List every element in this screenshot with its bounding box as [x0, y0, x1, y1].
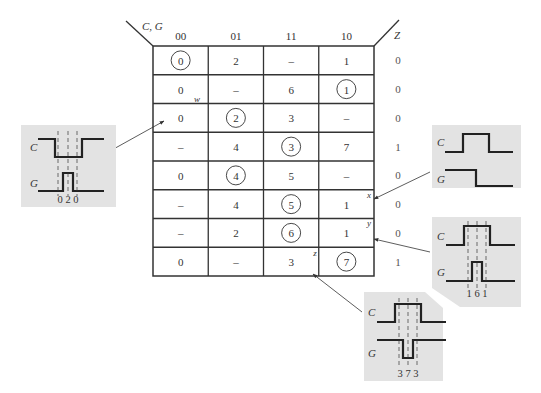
marker-w: w	[194, 94, 200, 104]
signal-c-label: C	[437, 230, 445, 242]
table-cell: 6	[282, 223, 301, 242]
state-value: 1	[344, 199, 350, 211]
table-cell: 2	[233, 55, 239, 67]
table-cell: 3	[282, 137, 301, 156]
table-cell: –	[287, 55, 294, 67]
state-value: 0	[178, 256, 184, 268]
state-sequence: 1 6 1	[467, 288, 488, 299]
arrow-y	[374, 239, 430, 252]
column-header: 00	[175, 30, 187, 42]
output-value: 0	[395, 169, 401, 181]
state-value: 2	[233, 55, 239, 67]
state-value: 2	[233, 227, 239, 239]
state-value: 5	[288, 170, 294, 182]
marker-z: z	[312, 248, 317, 258]
state-value: –	[177, 199, 184, 211]
output-value: 0	[395, 198, 401, 210]
state-value: –	[343, 170, 350, 182]
state-value: –	[177, 227, 184, 239]
arrow-z	[313, 274, 362, 312]
table-cell: 5	[282, 195, 301, 214]
flow-table-grid	[153, 46, 374, 276]
state-value: 4	[233, 141, 239, 153]
table-cell: –	[177, 141, 184, 153]
state-value: 0	[178, 170, 184, 182]
table-cell: 0	[178, 84, 184, 96]
state-value: –	[287, 55, 294, 67]
state-value: 5	[288, 199, 294, 211]
state-value: 4	[233, 199, 239, 211]
state-value: –	[232, 256, 239, 268]
state-value: –	[232, 84, 239, 96]
signal-c-label: C	[437, 136, 445, 148]
table-cell: –	[232, 84, 239, 96]
marker-y: y	[366, 218, 371, 228]
column-header: 11	[286, 30, 297, 42]
signal-g-label: G	[437, 266, 445, 278]
table-cell: 3	[288, 112, 294, 124]
output-label: Z	[394, 29, 401, 41]
state-value: 3	[288, 256, 294, 268]
table-cell: 0	[178, 170, 184, 182]
table-cell: 3	[288, 256, 294, 268]
state-value: 0	[178, 55, 184, 67]
signal-c-label: C	[368, 306, 376, 318]
table-cell: –	[177, 199, 184, 211]
table-cell: 0	[171, 51, 190, 70]
state-value: 0	[178, 84, 184, 96]
table-cell: –	[343, 170, 350, 182]
table-cell: 1	[344, 199, 350, 211]
state-value: 1	[344, 55, 350, 67]
table-cell: 1	[344, 227, 350, 239]
timing-panel-w: C G 0 2 0	[21, 125, 116, 207]
output-value: 1	[395, 256, 401, 268]
state-value: 1	[344, 227, 350, 239]
arrow-x	[374, 172, 430, 199]
column-header: 10	[341, 30, 353, 42]
state-value: –	[177, 141, 184, 153]
column-headers: 00011110	[175, 30, 352, 42]
table-cell: 0	[178, 112, 184, 124]
table-cell: 1	[344, 55, 350, 67]
state-value: –	[343, 112, 350, 124]
state-value: 7	[344, 256, 350, 268]
signal-g-label: G	[437, 173, 445, 185]
state-value: 7	[344, 141, 350, 153]
table-cell: 5	[288, 170, 294, 182]
state-value: 3	[288, 141, 294, 153]
state-value: 2	[233, 112, 239, 124]
signal-g-label: G	[368, 347, 376, 359]
state-value: 6	[288, 84, 294, 96]
arrow-w	[110, 121, 164, 151]
state-value: 3	[288, 112, 294, 124]
table-cell: –	[232, 256, 239, 268]
state-value: 6	[288, 227, 294, 239]
table-cell: 0	[178, 256, 184, 268]
timing-panel-x: C G	[432, 125, 521, 188]
output-column: 00010001	[395, 54, 401, 267]
signal-c-label: C	[30, 141, 38, 153]
state-sequence: 0 2 0	[58, 194, 79, 205]
state-value: 4	[233, 170, 239, 182]
table-cell: –	[177, 227, 184, 239]
column-header: 01	[230, 30, 241, 42]
table-cell: 2	[233, 227, 239, 239]
output-value: 0	[395, 83, 401, 95]
table-cell: 4	[233, 199, 239, 211]
timing-panel-z: C G 3 7 3	[364, 292, 446, 381]
table-cell: 4	[233, 141, 239, 153]
table-cell: 4	[226, 166, 245, 185]
table-cell: 7	[337, 252, 356, 271]
table-cell: 2	[226, 108, 245, 127]
timing-panel-y: C G 1 6 1	[432, 217, 521, 307]
output-value: 1	[395, 141, 401, 153]
table-cell: 7	[344, 141, 350, 153]
state-value: 0	[178, 112, 184, 124]
output-value: 0	[395, 227, 401, 239]
marker-x: x	[366, 190, 371, 200]
row-variable-label: C, G	[142, 20, 163, 32]
output-value: 0	[395, 54, 401, 66]
table-cell: 1	[337, 80, 356, 99]
table-cell: 6	[288, 84, 294, 96]
state-sequence: 3 7 3	[398, 368, 419, 379]
